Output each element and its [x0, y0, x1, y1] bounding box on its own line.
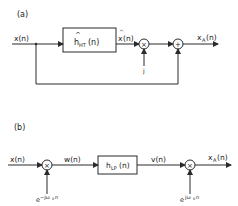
w-label: w(n): [64, 155, 81, 164]
output-label-a: x A (n): [197, 33, 217, 43]
block-diagrams: (a) x(n) ^ h HT (n) ^ x (n) × j +: [0, 0, 238, 206]
svg-text:−jω: −jω: [40, 194, 50, 201]
svg-text:n: n: [196, 194, 199, 200]
mixer-2-input-label: e jω 0 n: [180, 194, 199, 204]
v-label: v(n): [151, 155, 166, 164]
bypass-path: [36, 44, 178, 84]
lowpass-filter-block: [98, 156, 137, 174]
multiply-icon: ×: [187, 162, 193, 170]
mixer-1-input-label: e −jω 0 n: [36, 194, 58, 204]
svg-text:0: 0: [52, 197, 54, 201]
svg-text:LP: LP: [111, 165, 117, 171]
diagram-a-label: (a): [17, 10, 28, 19]
filter-output-label: ^ x (n): [118, 28, 134, 43]
plus-icon: +: [175, 41, 181, 49]
svg-text:0: 0: [193, 197, 195, 201]
svg-text:(n): (n): [206, 33, 217, 42]
input-label-a: x(n): [14, 34, 29, 43]
svg-text:(n): (n): [123, 34, 134, 43]
svg-text:(n): (n): [217, 153, 228, 162]
svg-text:(n): (n): [119, 161, 130, 170]
output-label-b: x A (n): [208, 153, 228, 163]
svg-text:(n): (n): [88, 38, 99, 47]
lowpass-filter-label: h LP (n): [106, 161, 130, 171]
diagram-b-label: (b): [14, 123, 25, 132]
hilbert-filter-label: ^ h HT (n): [74, 31, 99, 48]
svg-text:jω: jω: [184, 194, 191, 201]
svg-text:e: e: [180, 196, 184, 204]
svg-text:n: n: [55, 194, 58, 200]
diagram-a: (a) x(n) ^ h HT (n) ^ x (n) × j +: [12, 10, 218, 84]
svg-text:HT: HT: [79, 42, 87, 48]
input-label-b: x(n): [10, 155, 25, 164]
diagram-b: (b) x(n) × e −jω 0 n w(n) h LP (n) v(n) …: [8, 123, 231, 204]
multiply-icon: ×: [44, 162, 50, 170]
j-label: j: [142, 67, 145, 75]
multiply-icon: ×: [141, 41, 147, 49]
